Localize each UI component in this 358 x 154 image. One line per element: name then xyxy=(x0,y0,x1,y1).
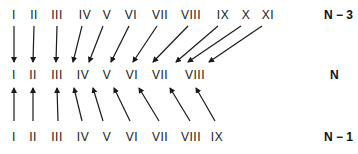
arrow-up-iv xyxy=(74,88,82,121)
label-top-vii: VII xyxy=(152,8,168,22)
row-bottom-labels: IIIIIIIVVVIVIIVIIIIX xyxy=(12,130,223,144)
label-middle-v: V xyxy=(103,68,112,82)
arrows-bottom-to-middle xyxy=(14,88,215,121)
label-bottom-vii: VII xyxy=(152,130,168,144)
arrow-down-vi xyxy=(111,26,129,62)
label-bottom-viii: VIII xyxy=(181,130,201,144)
row-label-n: N xyxy=(330,68,339,82)
label-middle-viii: VIII xyxy=(185,68,205,82)
arrow-down-v xyxy=(89,26,103,62)
label-bottom-i: I xyxy=(12,130,16,144)
arrow-up-iii xyxy=(57,88,58,121)
label-middle-vii: VII xyxy=(152,68,168,82)
label-top-v: V xyxy=(103,8,112,22)
arrow-down-x xyxy=(188,26,241,62)
label-bottom-v: V xyxy=(103,130,112,144)
label-bottom-ii: II xyxy=(29,130,37,144)
label-top-x: X xyxy=(242,8,251,22)
label-bottom-vi: VI xyxy=(126,130,138,144)
arrow-up-vii xyxy=(139,88,159,121)
label-top-ix: IX xyxy=(217,8,229,22)
label-top-ii: II xyxy=(30,8,38,22)
diagram-canvas: IIIIIIIVVVIVIIVIIIIXXXI IIIIIIIVVVIVIIVI… xyxy=(0,0,358,154)
arrow-down-iii xyxy=(56,26,57,62)
arrow-down-vii xyxy=(133,26,157,62)
arrow-down-xi xyxy=(209,26,262,62)
row-top-labels: IIIIIIIVVVIVIIVIIIIXXXI xyxy=(12,8,274,22)
label-top-vi: VI xyxy=(125,8,137,22)
label-bottom-iv: IV xyxy=(77,130,89,144)
arrow-down-iv xyxy=(73,26,82,62)
label-top-xi: XI xyxy=(262,8,274,22)
arrow-up-v xyxy=(93,88,103,121)
arrows-top-to-middle xyxy=(14,26,262,62)
label-middle-ii: II xyxy=(29,68,37,82)
arrow-up-vi xyxy=(114,88,130,121)
label-top-iii: III xyxy=(51,8,63,22)
label-middle-iii: III xyxy=(51,68,63,82)
label-middle-iv: IV xyxy=(77,68,89,82)
label-top-viii: VIII xyxy=(181,8,201,22)
row-middle-labels: IIIIIIIVVVIVIIVIII xyxy=(12,68,205,82)
arrow-up-ix xyxy=(196,88,215,121)
label-top-iv: IV xyxy=(79,8,91,22)
label-middle-vi: VI xyxy=(126,68,138,82)
row-label-n-minus-1: N − 1 xyxy=(324,130,353,144)
row-label-n-minus-3: N − 3 xyxy=(324,8,353,22)
label-middle-i: I xyxy=(12,68,16,82)
vertebra-correspondence-diagram: IIIIIIIVVVIVIIVIIIIXXXI IIIIIIIVVVIVIIVI… xyxy=(0,0,358,154)
label-top-i: I xyxy=(12,8,16,22)
arrow-down-ii xyxy=(33,26,34,62)
arrow-up-viii xyxy=(170,88,190,121)
label-bottom-ix: IX xyxy=(211,130,223,144)
label-bottom-iii: III xyxy=(51,130,63,144)
